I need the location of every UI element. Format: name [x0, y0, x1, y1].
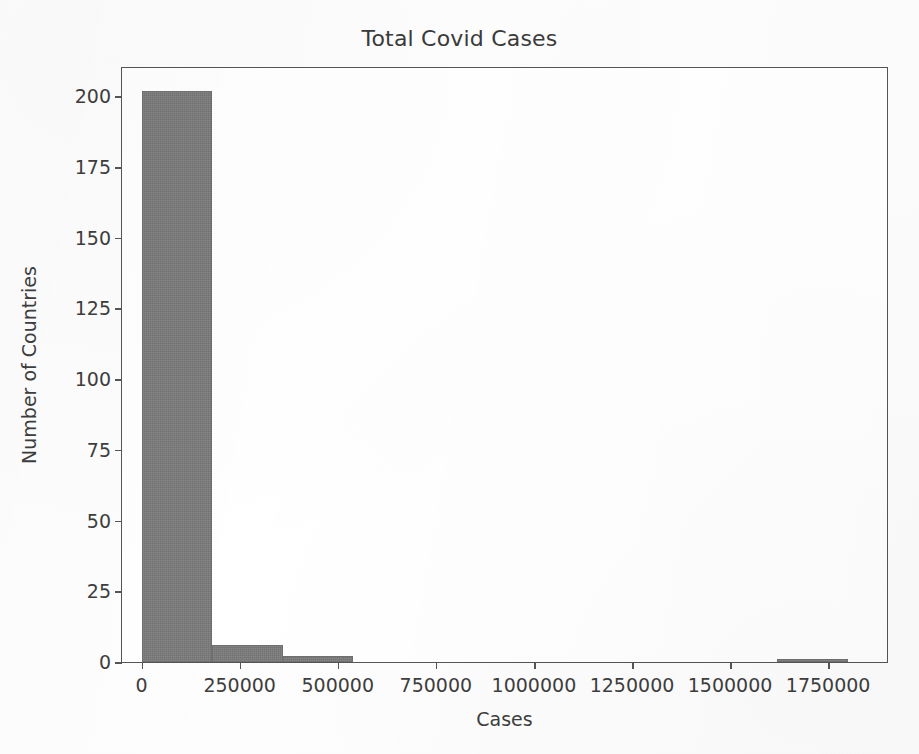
- y-tick-label: 75: [87, 439, 111, 461]
- y-tick-mark: [115, 521, 122, 523]
- y-tick-label: 25: [87, 580, 111, 602]
- histogram-bar: [777, 659, 848, 662]
- x-tick-label: 750000: [400, 674, 473, 696]
- histogram-bar: [212, 645, 283, 662]
- x-tick-mark: [338, 662, 340, 669]
- y-axis-label: Number of Countries: [18, 266, 40, 464]
- y-tick-mark: [115, 238, 122, 240]
- x-tick-label: 0: [136, 674, 148, 696]
- x-tick-mark: [240, 662, 242, 669]
- x-tick-label: 250000: [203, 674, 276, 696]
- x-tick-mark: [828, 662, 830, 669]
- y-tick-label: 175: [75, 156, 111, 178]
- x-tick-mark: [730, 662, 732, 669]
- x-tick-label: 500000: [302, 674, 375, 696]
- y-tick-mark: [115, 167, 122, 169]
- x-tick-mark: [436, 662, 438, 669]
- x-tick-label: 1000000: [492, 674, 577, 696]
- histogram-bar: [142, 91, 213, 662]
- y-tick-mark: [115, 450, 122, 452]
- y-tick-mark: [115, 96, 122, 98]
- y-tick-label: 150: [75, 227, 111, 249]
- x-tick-label: 1500000: [688, 674, 773, 696]
- y-tick-label: 0: [99, 651, 111, 673]
- y-tick-mark: [115, 308, 122, 310]
- plot-area: 0255075100125150175200 02500005000007500…: [121, 67, 888, 663]
- chart-title: Total Covid Cases: [0, 26, 919, 51]
- y-tick-mark: [115, 591, 122, 593]
- x-tick-label: 1250000: [590, 674, 675, 696]
- y-tick-label: 200: [75, 85, 111, 107]
- x-tick-mark: [632, 662, 634, 669]
- y-tick-label: 125: [75, 297, 111, 319]
- y-tick-mark: [115, 662, 122, 664]
- x-tick-mark: [142, 662, 144, 669]
- x-tick-label: 1750000: [786, 674, 871, 696]
- histogram-bar: [283, 656, 354, 662]
- x-axis-label: Cases: [121, 708, 888, 730]
- histogram-bars: [122, 68, 887, 662]
- y-tick-label: 100: [75, 368, 111, 390]
- chart-page: Total Covid Cases 0255075100125150175200…: [0, 0, 919, 754]
- y-tick-mark: [115, 379, 122, 381]
- y-tick-label: 50: [87, 510, 111, 532]
- x-tick-mark: [534, 662, 536, 669]
